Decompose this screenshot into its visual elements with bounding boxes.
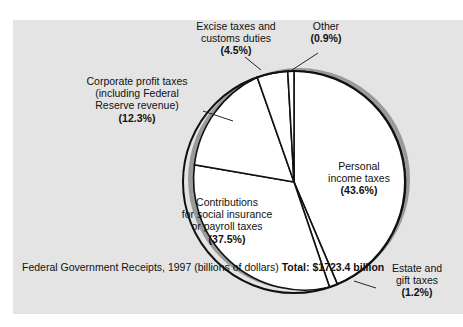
caption-title: Federal Government Receipts, 1997: [22, 261, 191, 273]
label-line: (including Federal: [62, 87, 212, 99]
label-percent: (1.2%): [378, 286, 456, 298]
leader-line-other: [292, 53, 318, 70]
caption-total: Total: $1723.4 billion: [282, 261, 385, 273]
slice-label-contributions-social-insurance: Contributions for social insurance or pa…: [160, 196, 294, 245]
label-percent: (4.5%): [178, 44, 294, 56]
label-percent: (43.6%): [313, 184, 405, 196]
slice-label-personal-income-taxes: Personal income taxes (43.6%): [313, 160, 405, 197]
label-line: Excise taxes and: [178, 20, 294, 32]
label-line: gift taxes: [378, 274, 456, 286]
label-line: or payroll taxes: [160, 220, 294, 232]
label-percent: (37.5%): [160, 233, 294, 245]
pie-chart-figure: Excise taxes and customs duties (4.5%) O…: [0, 0, 463, 327]
label-line: Corporate profit taxes: [62, 75, 212, 87]
slice-label-corporate-profit-taxes: Corporate profit taxes (including Federa…: [62, 75, 212, 124]
slice-label-other: Other (0.9%): [296, 20, 356, 44]
slice-label-estate-and-gift-taxes: Estate and gift taxes (1.2%): [378, 262, 456, 299]
label-line: Personal: [313, 160, 405, 172]
label-line: Reserve revenue): [62, 99, 212, 111]
caption-units: (billions of dollars): [194, 261, 279, 273]
label-line: Estate and: [378, 262, 456, 274]
leader-line-excise: [245, 57, 261, 70]
label-line: customs duties: [178, 32, 294, 44]
slice-label-excise-taxes: Excise taxes and customs duties (4.5%): [178, 20, 294, 57]
label-percent: (12.3%): [62, 112, 212, 124]
chart-caption: Federal Government Receipts, 1997 (billi…: [22, 261, 206, 274]
label-line: Contributions: [160, 196, 294, 208]
leader-line-estate: [354, 281, 376, 288]
label-percent: (0.9%): [296, 32, 356, 44]
label-line: Other: [296, 20, 356, 32]
label-line: for social insurance: [160, 208, 294, 220]
label-line: income taxes: [313, 172, 405, 184]
